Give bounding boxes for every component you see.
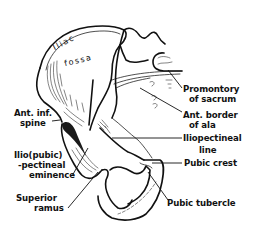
- leader-ant-border: [140, 88, 182, 112]
- leader-promontory: [168, 70, 182, 88]
- label-superior-line1: Superior: [16, 193, 57, 203]
- label-promontory-line1: Promontory: [183, 84, 239, 94]
- ant-inf-spine-shading: [62, 122, 86, 156]
- fossa-ridge: [89, 80, 93, 125]
- sacrum-wing: [120, 45, 148, 62]
- promontory-body: [153, 53, 182, 71]
- ala-marks: [150, 80, 172, 108]
- label-ant-border-line1: Ant. border: [183, 110, 238, 120]
- label-pubic-tubercle: Pubic tubercle: [167, 198, 236, 208]
- label-eminence-line2: -pectineal: [18, 160, 65, 170]
- label-ant-border-line2: of ala: [189, 120, 216, 130]
- label-pubic-crest: Pubic crest: [184, 158, 237, 168]
- label-eminence-line3: eminence: [29, 170, 75, 180]
- fossa-hatching: [47, 61, 84, 126]
- label-ant-inf-line2: spine: [20, 118, 46, 128]
- label-ant-inf-line1: Ant. inf.: [14, 108, 52, 118]
- label-eminence-line1: Ilio(pubic): [14, 150, 62, 160]
- ala-border-line-3: [116, 78, 150, 88]
- label-iliopectineal-line2: line: [199, 145, 216, 155]
- pubic-body-outline: [98, 160, 163, 220]
- promontory-detail: [158, 57, 172, 65]
- iliopectineal-ridge: [100, 128, 144, 160]
- superior-ramus-outline: [102, 169, 132, 208]
- label-superior-line2: ramus: [34, 203, 64, 213]
- obturator-foramen: [110, 166, 150, 204]
- label-promontory-line2: of sacrum: [189, 94, 236, 104]
- ala-outline: [124, 28, 165, 44]
- leader-ant-inf-spine: [52, 120, 60, 121]
- label-iliopectineal-line1: Iliopectineal: [183, 133, 242, 143]
- anatomy-figure: Iliac fossa Promontory of sacrum Ant. bo…: [0, 0, 255, 235]
